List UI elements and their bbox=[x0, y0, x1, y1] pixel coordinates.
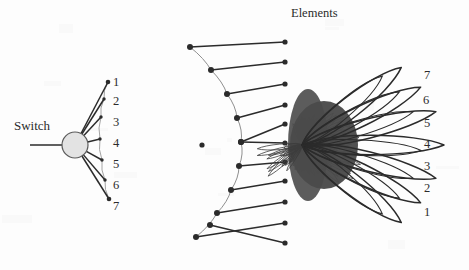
switch-port-label-5: 5 bbox=[113, 158, 119, 171]
element-dot-6 bbox=[282, 140, 287, 145]
switch-label: Switch bbox=[14, 119, 50, 132]
reflector-dot-6 bbox=[228, 187, 234, 193]
element-dot-8 bbox=[282, 178, 287, 183]
element-dot-11 bbox=[282, 240, 287, 245]
beam-label-1: 1 bbox=[424, 206, 430, 219]
switch-port-dot-1 bbox=[106, 80, 111, 85]
switch-port-label-2: 2 bbox=[113, 95, 119, 108]
reflector-dot-7 bbox=[214, 210, 220, 216]
switch-port-dot-5 bbox=[100, 158, 103, 161]
switch-body[interactable] bbox=[62, 132, 88, 158]
reflector-dot-extra-0 bbox=[238, 139, 244, 145]
beam-label-5: 5 bbox=[424, 117, 430, 130]
beam-label-6: 6 bbox=[423, 94, 429, 107]
elements-label: Elements bbox=[291, 7, 338, 20]
beam-label-3: 3 bbox=[424, 160, 430, 173]
element-dot-1 bbox=[282, 39, 287, 44]
beam-forming-antenna-diagram bbox=[0, 0, 469, 270]
switch-port-dot-2 bbox=[102, 97, 105, 100]
switch-port-label-7: 7 bbox=[113, 200, 119, 213]
element-dot-9 bbox=[282, 199, 287, 204]
switch-port-label-6: 6 bbox=[113, 179, 119, 192]
element-dot-5 bbox=[282, 121, 287, 126]
array-focus-dot bbox=[199, 142, 204, 147]
reflector-dot-0 bbox=[187, 44, 193, 50]
element-dot-3 bbox=[282, 81, 287, 86]
reflector-dot-8 bbox=[193, 234, 199, 240]
element-dot-4 bbox=[282, 102, 287, 107]
switch-port-label-4: 4 bbox=[113, 137, 119, 150]
reflector-dot-3 bbox=[234, 115, 240, 121]
element-dot-10 bbox=[282, 220, 287, 225]
array-feed-line-extra-0 bbox=[241, 142, 285, 143]
switch-port-label-1: 1 bbox=[113, 76, 119, 89]
beam-label-4: 4 bbox=[424, 138, 430, 151]
switch-port-dot-7 bbox=[107, 197, 112, 202]
switch-port-dot-3 bbox=[99, 115, 102, 118]
element-dot-2 bbox=[282, 59, 287, 64]
switch-port-dot-6 bbox=[103, 178, 106, 181]
reflector-dot-extra-1 bbox=[207, 222, 213, 228]
reflector-dot-2 bbox=[224, 91, 230, 97]
switch-port-label-3: 3 bbox=[113, 116, 119, 129]
switch-port-dot-4 bbox=[98, 137, 101, 140]
beam-label-2: 2 bbox=[424, 182, 430, 195]
reflector-dot-5 bbox=[236, 163, 242, 169]
beam-label-7: 7 bbox=[424, 69, 430, 82]
reflector-dot-1 bbox=[208, 67, 214, 73]
